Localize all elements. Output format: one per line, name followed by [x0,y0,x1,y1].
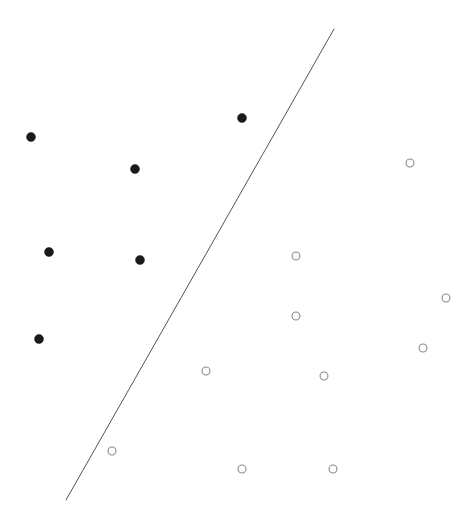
class-negative-point [329,465,337,473]
class-negative-point [202,367,210,375]
class-negative-point [442,294,450,302]
class-negative-point [419,344,427,352]
class-negative-point [238,465,246,473]
class-negative-point [320,372,328,380]
class-positive-point [35,335,44,344]
class-positive-point [238,114,247,123]
class-negative-point [406,159,414,167]
class-negative-point [292,312,300,320]
class-positive-point [136,256,145,265]
plot-background [0,0,474,524]
plot-canvas [0,0,474,524]
class-negative-point [292,252,300,260]
class-positive-point [131,165,140,174]
class-positive-point [27,133,36,142]
scatter-plot-figure: Scatter plot with six filled black dots … [0,0,474,524]
class-negative-point [108,447,116,455]
class-positive-point [45,248,54,257]
